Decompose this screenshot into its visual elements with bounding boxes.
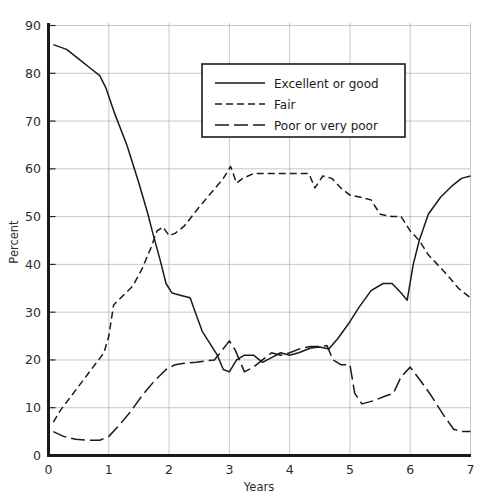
legend-label: Fair (274, 98, 295, 112)
y-tick-label: 10 (25, 400, 41, 415)
x-axis-title: Years (243, 480, 274, 494)
x-tick-label: 0 (45, 462, 53, 477)
y-tick-label: 90 (25, 18, 41, 33)
legend-label: Excellent or good (274, 77, 379, 91)
x-tick-label: 6 (406, 462, 414, 477)
y-tick-label: 30 (25, 305, 41, 320)
x-axis-tick-labels: 01234567 (45, 462, 475, 477)
y-tick-label: 80 (25, 66, 41, 81)
y-tick-label: 20 (25, 352, 41, 367)
x-tick-label: 5 (346, 462, 354, 477)
series-line (53, 341, 470, 440)
y-tick-label: 60 (25, 161, 41, 176)
x-tick-label: 3 (225, 462, 233, 477)
x-tick-label: 2 (165, 462, 173, 477)
legend: Excellent or goodFairPoor or very poor (202, 64, 405, 137)
y-tick-label: 70 (25, 114, 41, 129)
line-chart: 0102030405060708090 01234567 Percent Yea… (0, 0, 496, 503)
x-tick-label: 1 (105, 462, 113, 477)
y-tick-label: 40 (25, 257, 41, 272)
legend-label: Poor or very poor (274, 119, 378, 133)
y-tick-label: 0 (33, 448, 41, 463)
y-axis-tick-labels: 0102030405060708090 (25, 18, 41, 463)
x-tick-label: 4 (286, 462, 294, 477)
figure-container: 0102030405060708090 01234567 Percent Yea… (0, 0, 496, 503)
y-axis-title: Percent (7, 220, 21, 264)
y-tick-label: 50 (25, 209, 41, 224)
x-tick-label: 7 (467, 462, 475, 477)
